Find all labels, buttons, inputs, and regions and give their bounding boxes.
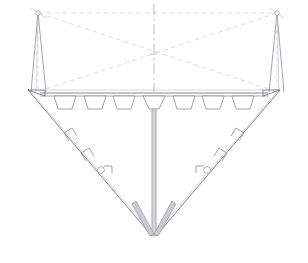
mast-port-head-node: [36, 11, 40, 15]
deck-frame-1: [54, 96, 76, 109]
deck-frame-3: [113, 96, 135, 109]
deck-frame-6: [202, 96, 224, 109]
mast-starboard-head-node: [275, 11, 279, 15]
hull-section-drawing: [0, 0, 308, 263]
keel-vertical-bar: [152, 109, 156, 236]
cad-drawing-root: [0, 0, 308, 263]
deck-frame-5: [173, 96, 195, 109]
keel-girder-group: [152, 109, 156, 236]
deck-frame-2: [84, 96, 106, 109]
pipe-penetration-port: [98, 167, 105, 174]
pipe-penetration-starboard: [204, 167, 211, 174]
deck-frame-7: [232, 96, 254, 109]
